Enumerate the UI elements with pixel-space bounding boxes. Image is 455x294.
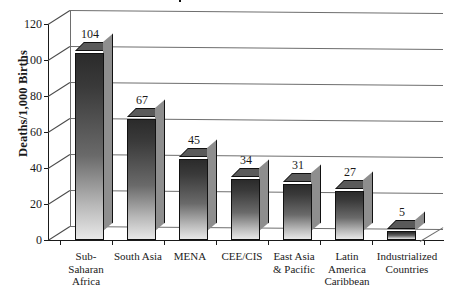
x-category-line: Caribbean [318, 275, 376, 288]
bar-front-1 [127, 119, 156, 240]
x-category-line: Africa [60, 275, 112, 288]
y-axis-title: Deaths/1,000 Births [16, 29, 31, 179]
bar-side-2 [207, 140, 217, 231]
bar-value-6: 5 [381, 205, 423, 220]
bar-side-4 [311, 165, 321, 231]
bar-group-0: 104 [75, 0, 115, 240]
bar-front-2 [179, 159, 208, 240]
y-tick-label-0: 0 [12, 234, 42, 246]
depth-connector-100 [48, 46, 70, 61]
bar-front-3 [231, 179, 260, 240]
bar-cap-2-ignore [179, 0, 181, 2]
x-axis-baseline [48, 240, 444, 241]
bar-chart: Deaths/1,000 Births 120 100 80 60 40 20 … [0, 0, 455, 294]
y-tick-label-80: 80 [12, 90, 42, 102]
bar-group-3: 34 [231, 0, 271, 240]
x-category-label-4: East Asia & Pacific [266, 250, 322, 275]
x-category-line: MENA [164, 250, 216, 263]
bar-group-6: 5 [387, 0, 427, 240]
bar-side-1 [155, 100, 165, 231]
bar-side-3 [259, 159, 269, 231]
x-category-line: East Asia [266, 250, 322, 263]
x-category-line: & Pacific [266, 263, 322, 276]
x-tick-7 [424, 241, 425, 245]
depth-connector-120 [48, 10, 70, 25]
bar-value-1: 67 [121, 93, 163, 108]
depth-connector-20 [48, 190, 70, 205]
x-category-line: Industrialized [367, 250, 447, 263]
x-tick-3 [216, 241, 217, 245]
bar-front-0 [75, 53, 104, 240]
x-category-line: Saharan [60, 263, 112, 276]
x-category-line: Countries [367, 263, 447, 276]
y-tick-label-40: 40 [12, 162, 42, 174]
bar-front-6 [387, 231, 416, 240]
x-category-label-0: Sub- Saharan Africa [60, 250, 112, 288]
y-tick-label-20: 20 [12, 198, 42, 210]
y-tick-label-120: 120 [12, 18, 42, 30]
depth-connector-60 [48, 118, 70, 133]
bar-value-4: 31 [277, 158, 319, 173]
x-tick-4 [268, 241, 269, 245]
bar-side-0 [103, 33, 113, 231]
y-tick-label-60: 60 [12, 126, 42, 138]
depth-connector-0 [48, 226, 70, 241]
x-category-line: Sub- [60, 250, 112, 263]
bar-group-2: 45 [179, 0, 219, 240]
bar-value-0: 104 [69, 27, 111, 42]
x-tick-6 [372, 241, 373, 245]
x-tick-5 [320, 241, 321, 245]
bar-value-2: 45 [173, 133, 215, 148]
x-tick-0 [60, 241, 61, 245]
x-tick-1 [112, 241, 113, 245]
bar-group-1: 67 [127, 0, 167, 240]
x-tick-2 [164, 241, 165, 245]
x-category-label-3: CEE/CIS [214, 250, 270, 263]
x-category-label-2: MENA [164, 250, 216, 263]
x-category-label-1: South Asia [110, 250, 166, 263]
bar-group-4: 31 [283, 0, 323, 240]
x-category-line: CEE/CIS [214, 250, 270, 263]
y-tick-label-100: 100 [12, 54, 42, 66]
x-category-line: South Asia [110, 250, 166, 263]
bar-value-3: 34 [225, 153, 267, 168]
x-category-label-6: Industrialized Countries [367, 250, 447, 275]
bar-front-5 [335, 191, 364, 240]
bar-front-4 [283, 184, 312, 240]
depth-connector-40 [48, 154, 70, 169]
depth-connector-80 [48, 82, 70, 97]
bar-group-5: 27 [335, 0, 375, 240]
bar-value-5: 27 [329, 165, 371, 180]
bar-side-5 [363, 172, 373, 231]
